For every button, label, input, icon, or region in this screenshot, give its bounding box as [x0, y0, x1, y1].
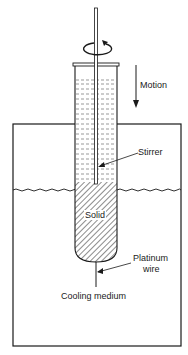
apparatus-diagram: [0, 0, 188, 355]
stirrer-label: Stirrer: [138, 147, 163, 157]
platinum-wire-label-line2: wire: [143, 264, 160, 274]
stirrer-rod: [95, 8, 98, 184]
solid-phase: [75, 182, 117, 264]
motion-arrow-icon: [133, 65, 139, 108]
platinum-wire-pointer: [97, 263, 131, 274]
solid-label: Solid: [84, 210, 106, 220]
platinum-wire-label-line1: Platinum: [133, 253, 168, 263]
motion-label: Motion: [140, 80, 167, 90]
cooling-medium-label: Cooling medium: [61, 291, 126, 301]
